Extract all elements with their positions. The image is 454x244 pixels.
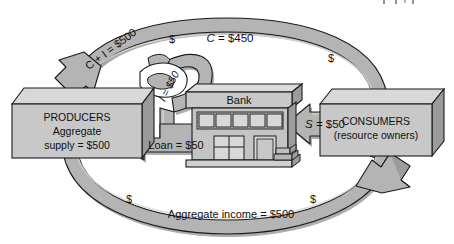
- producers-line2: Aggregate: [53, 125, 102, 137]
- consumers-line2: (resource owners): [334, 129, 419, 141]
- lower-arc-label: Aggregate income = $500: [168, 208, 294, 220]
- savings-label: S = $50: [305, 118, 345, 130]
- loan-label: Loan = $50: [148, 139, 203, 151]
- bank-building: Bank: [186, 84, 302, 167]
- circular-flow-diagram: Bank: [0, 0, 454, 244]
- currency-mark-upper-left: $: [169, 33, 175, 45]
- savings-label-value: = $50: [313, 118, 345, 130]
- producers-line3: supply = $500: [44, 139, 110, 151]
- producers-line1: PRODUCERS: [43, 111, 110, 123]
- consumers-line1: CONSUMERS: [342, 115, 410, 127]
- currency-mark-lower-right: $: [310, 193, 316, 205]
- diagram-canvas: Bank: [0, 0, 454, 244]
- currency-mark-lower-left: $: [126, 193, 132, 205]
- upper-arc-right-label: C = $450: [206, 32, 253, 44]
- bank-upper-windows: [199, 114, 282, 127]
- cut-off-text-remnant: [383, 0, 414, 4]
- bank-label: Bank: [226, 94, 252, 106]
- producers-box: PRODUCERS Aggregate supply = $500: [12, 88, 154, 158]
- currency-mark-upper-right: $: [328, 52, 334, 64]
- upper-arc-right-label-value: = $450: [215, 32, 254, 44]
